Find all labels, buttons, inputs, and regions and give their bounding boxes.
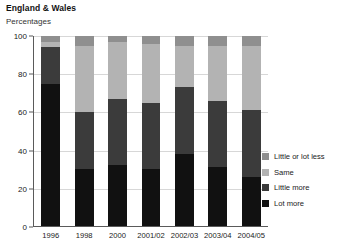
x-axis-tick-label: 2001/02: [137, 231, 164, 240]
x-axis-tick-label: 1996: [42, 231, 59, 240]
bar-segment[interactable]: [175, 36, 194, 46]
stacked-bar[interactable]: [175, 36, 194, 226]
x-axis-tick-label: 2004/05: [238, 231, 265, 240]
page-title: England & Wales: [6, 3, 76, 13]
bar-group[interactable]: 1998: [75, 36, 94, 226]
bar-segment[interactable]: [41, 84, 60, 227]
bar-segment[interactable]: [75, 46, 94, 113]
bar-group[interactable]: 2001/02: [142, 36, 161, 226]
bar-group[interactable]: 2003/04: [208, 36, 227, 226]
bar-segment[interactable]: [208, 101, 227, 168]
stacked-bar[interactable]: [242, 36, 261, 226]
bar-segment[interactable]: [208, 46, 227, 101]
y-axis-tick-label: 80: [18, 70, 27, 79]
bar-segment[interactable]: [208, 167, 227, 226]
y-axis-tick-label: 60: [18, 108, 27, 117]
y-axis-tick-mark: [29, 36, 33, 37]
legend-swatch-icon: [262, 200, 269, 207]
legend-swatch-icon: [262, 184, 269, 191]
bar-segment[interactable]: [208, 36, 227, 46]
bar-segment[interactable]: [242, 110, 261, 177]
bar-segment[interactable]: [108, 42, 127, 99]
legend-swatch-icon: [262, 153, 269, 160]
y-axis-tick-mark: [29, 74, 33, 75]
bar-segment[interactable]: [175, 46, 194, 88]
plot-area: 020406080100 1996199820002001/022002/032…: [33, 36, 268, 227]
bar-segment[interactable]: [175, 87, 194, 154]
bar-segment[interactable]: [75, 112, 94, 169]
bar-segment[interactable]: [142, 44, 161, 103]
y-axis-tick-mark: [29, 112, 33, 113]
bar-segment[interactable]: [75, 36, 94, 46]
legend-label: Little or lot less: [274, 152, 325, 161]
y-axis-tick-mark: [29, 188, 33, 189]
bar-group[interactable]: 2004/05: [242, 36, 261, 226]
x-axis-tick-label: 2002/03: [171, 231, 198, 240]
stacked-bar[interactable]: [41, 36, 60, 226]
bar-segment[interactable]: [75, 169, 94, 226]
legend-item[interactable]: Little more: [262, 183, 325, 192]
chart-legend: Little or lot lessSameLittle moreLot mor…: [262, 152, 325, 208]
bar-segment[interactable]: [142, 169, 161, 226]
x-axis-tick-label: 2003/04: [204, 231, 231, 240]
legend-item[interactable]: Same: [262, 168, 325, 177]
bar-segment[interactable]: [242, 36, 261, 46]
stacked-bar[interactable]: [108, 36, 127, 226]
y-axis-tick-mark: [29, 227, 33, 228]
stacked-bar[interactable]: [142, 36, 161, 226]
chart-subtitle: Percentages: [6, 17, 51, 26]
bar-group[interactable]: 1996: [41, 36, 60, 226]
bar-segment[interactable]: [142, 103, 161, 170]
legend-label: Little more: [274, 183, 309, 192]
x-axis-line: [33, 226, 268, 227]
chart-container: England & Wales Percentages 020406080100…: [0, 0, 343, 250]
bar-group[interactable]: 2000: [108, 36, 127, 226]
y-axis-tick-label: 20: [18, 184, 27, 193]
stacked-bar[interactable]: [208, 36, 227, 226]
x-axis-tick-label: 1998: [76, 231, 93, 240]
bar-segment[interactable]: [41, 47, 60, 83]
bar-segment[interactable]: [108, 99, 127, 166]
y-axis-tick-label: 100: [14, 32, 27, 41]
bar-segment[interactable]: [108, 165, 127, 226]
bar-segment[interactable]: [242, 177, 261, 226]
legend-item[interactable]: Little or lot less: [262, 152, 325, 161]
bar-segment[interactable]: [175, 154, 194, 226]
y-axis-tick-mark: [29, 150, 33, 151]
legend-label: Lot more: [274, 199, 304, 208]
y-axis-tick-label: 40: [18, 146, 27, 155]
stacked-bar[interactable]: [75, 36, 94, 226]
bar-group[interactable]: 2002/03: [175, 36, 194, 226]
x-axis-tick-label: 2000: [109, 231, 126, 240]
bar-segment[interactable]: [242, 46, 261, 111]
bar-series-group: 1996199820002001/022002/032003/042004/05: [34, 36, 268, 226]
bar-segment[interactable]: [142, 36, 161, 44]
legend-swatch-icon: [262, 169, 269, 176]
legend-item[interactable]: Lot more: [262, 199, 325, 208]
legend-label: Same: [274, 168, 294, 177]
y-axis-tick-label: 0: [23, 223, 27, 232]
